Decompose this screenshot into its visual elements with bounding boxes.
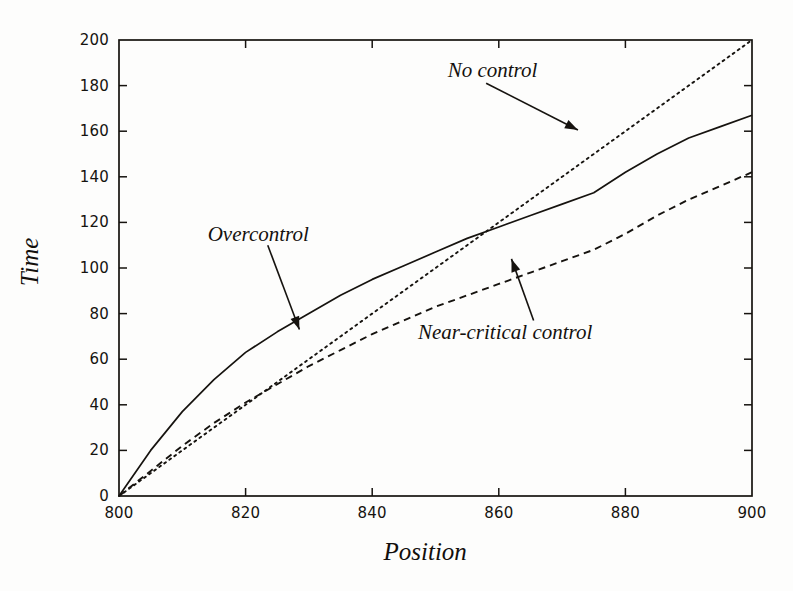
y-tick-label: 120	[71, 213, 109, 231]
series-line-0	[119, 115, 752, 496]
y-tick-label: 200	[71, 31, 109, 49]
figure-canvas: 800820840860880900 020406080100120140160…	[0, 0, 793, 591]
series-line-1	[119, 40, 752, 496]
x-tick-label: 860	[481, 504, 517, 522]
annotation-arrowhead-0	[564, 120, 578, 130]
series-lines	[119, 40, 752, 496]
annotation-arrowhead-2	[511, 259, 520, 273]
y-tick-label: 40	[71, 396, 109, 414]
x-axis-title: Position	[384, 538, 467, 566]
x-tick-label: 820	[228, 504, 264, 522]
y-tick-label: 20	[71, 441, 109, 459]
chart-plot	[0, 0, 793, 591]
annotation-arrow-1	[268, 245, 300, 329]
y-tick-label: 0	[71, 487, 109, 505]
y-tick-label: 140	[71, 168, 109, 186]
annotation-label-1: Overcontrol	[208, 222, 309, 247]
annotation-arrows	[268, 83, 578, 329]
x-tick-label: 840	[354, 504, 390, 522]
x-tick-label: 900	[734, 504, 770, 522]
y-tick-label: 160	[71, 122, 109, 140]
x-tick-label: 880	[607, 504, 643, 522]
x-tick-label: 800	[101, 504, 137, 522]
annotation-arrow-0	[486, 83, 578, 130]
y-tick-label: 100	[71, 259, 109, 277]
y-tick-label: 180	[71, 77, 109, 95]
y-tick-label: 80	[71, 305, 109, 323]
y-axis-title: Time	[16, 238, 44, 287]
annotation-label-0: No control	[448, 58, 538, 83]
annotation-label-2: Near-critical control	[418, 320, 592, 345]
y-tick-label: 60	[71, 350, 109, 368]
